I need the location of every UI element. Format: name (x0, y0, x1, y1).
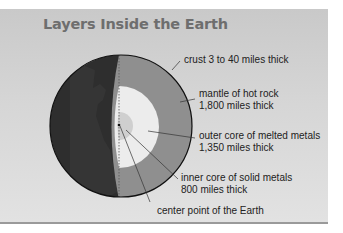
inner-core-label: inner core of solid metals 800 miles thi… (181, 172, 292, 196)
earth-cross-section (0, 0, 343, 233)
mantle-label: mantle of hot rock 1,800 miles thick (199, 88, 278, 112)
center-point (118, 124, 121, 127)
outer-core-label: outer core of melted metals 1,350 miles … (199, 130, 320, 154)
center-point-label: center point of the Earth (157, 205, 264, 217)
crust-label: crust 3 to 40 miles thick (184, 54, 288, 66)
crust-leader (172, 61, 180, 70)
